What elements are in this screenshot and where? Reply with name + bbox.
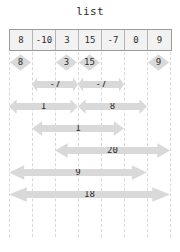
- array-row: 8-10315-709: [9, 29, 172, 51]
- subarray-sum-label: 20: [107, 146, 118, 155]
- subarray-sum-label: 1: [41, 102, 46, 111]
- subarray-sum-label: 15: [84, 58, 95, 67]
- page-title: list: [0, 5, 180, 18]
- array-cell: 3: [56, 30, 79, 50]
- subarray-diamond: 9: [147, 53, 170, 72]
- subarray-sum-label: 8: [18, 58, 23, 67]
- arrow-band: 1: [0, 119, 180, 138]
- subarray-arrow: 18: [9, 185, 170, 204]
- array-cell: -10: [33, 30, 56, 50]
- arrow-band: 9: [0, 163, 180, 182]
- arrow-band: 18: [0, 97, 180, 116]
- subarray-sum-label: 1: [75, 124, 80, 133]
- subarray-sum-label: 8: [110, 102, 115, 111]
- subarray-arrow: -7: [32, 75, 78, 94]
- subarray-arrow: 20: [55, 141, 170, 160]
- subarray-sum-label: 3: [64, 58, 69, 67]
- subarray-arrow: 1: [9, 97, 78, 116]
- subarray-diamond: 8: [9, 53, 32, 72]
- arrow-band: 20: [0, 141, 180, 160]
- array-cell: 15: [79, 30, 102, 50]
- subarray-sum-label: 9: [156, 58, 161, 67]
- arrow-band: 83159: [0, 53, 180, 72]
- subarray-sum-label: -7: [50, 80, 61, 89]
- subarray-sum-label: 18: [84, 190, 95, 199]
- subarray-arrow: 8: [78, 97, 147, 116]
- subarray-arrow: -7: [78, 75, 124, 94]
- subarray-sum-label: -7: [96, 80, 107, 89]
- subarray-sum-label: 9: [75, 168, 80, 177]
- array-cell: 9: [148, 30, 171, 50]
- subarray-sum-diagram: list 8-10315-709 83159-7-718120918: [0, 0, 180, 252]
- subarray-diamond: 3: [55, 53, 78, 72]
- subarray-diamond: 15: [78, 53, 101, 72]
- array-cell: -7: [102, 30, 125, 50]
- arrow-band: -7-7: [0, 75, 180, 94]
- arrow-band: 18: [0, 185, 180, 204]
- array-cell: 8: [10, 30, 33, 50]
- array-cell: 0: [125, 30, 148, 50]
- subarray-arrow: 1: [32, 119, 124, 138]
- subarray-arrow: 9: [9, 163, 147, 182]
